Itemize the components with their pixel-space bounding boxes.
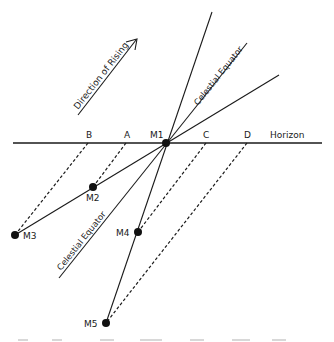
point-label-d: D — [244, 130, 251, 140]
moon-dot-m1 — [162, 139, 170, 147]
moon-label-m2: M2 — [86, 193, 100, 203]
point-label-c: C — [203, 130, 209, 140]
horizon-label: Horizon — [270, 130, 304, 140]
moon-dot-m2 — [89, 183, 97, 191]
moon-label-m3: M3 — [23, 231, 37, 241]
cropped-caption-remnant — [18, 339, 286, 341]
dashed-b-m3 — [15, 143, 88, 235]
moon-label-m1: M1 — [150, 130, 164, 140]
celestial-equator-label-lower: Celestial Equator — [55, 209, 108, 272]
moon-dot-m4 — [134, 228, 142, 236]
shallow-path-line — [15, 75, 279, 235]
moon-dot-m3 — [11, 231, 19, 239]
dashed-a-m2 — [93, 143, 126, 187]
moon-rising-diagram: Direction of Rising Horizon B A C D Cele… — [0, 0, 334, 342]
moon-label-m5: M5 — [84, 319, 98, 329]
celestial-equator-label-upper: Celestial Equator — [192, 44, 245, 107]
moon-dot-m5 — [102, 319, 110, 327]
moon-label-m4: M4 — [116, 228, 130, 238]
point-label-a: A — [124, 130, 131, 140]
direction-of-rising-arrow — [78, 39, 137, 115]
point-label-b: B — [86, 130, 92, 140]
dashed-c-m4 — [138, 143, 206, 232]
direction-of-rising-label: Direction of Rising — [72, 40, 131, 111]
